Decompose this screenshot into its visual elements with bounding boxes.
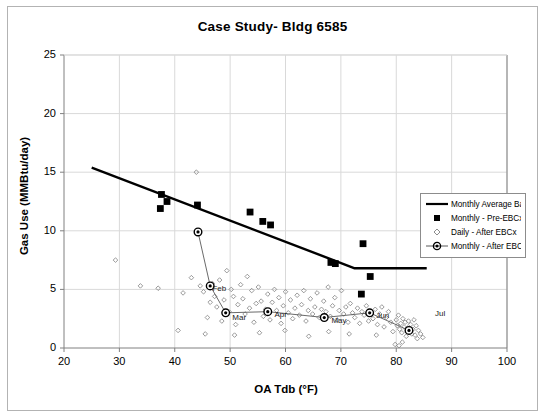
legend-item-daily-after: Daily - After EBCx (425, 225, 521, 239)
month-annotation: Mar (232, 313, 246, 322)
x-tick-label: 100 (493, 355, 521, 367)
y-axis-title: Gas Use (MMBtu/day) (18, 96, 30, 296)
x-tick-label: 40 (161, 355, 189, 367)
chart-legend: Monthly Average Baseline Monthly - Pre-E… (420, 193, 526, 258)
data-series (92, 168, 427, 348)
y-tick-label: 25 (30, 48, 56, 60)
x-tick-label: 20 (50, 355, 78, 367)
legend-label-pre-ebcx: Monthly - Pre-EBCx (451, 214, 521, 223)
month-annotation: Apr (274, 310, 286, 319)
month-annotation: May (331, 316, 346, 325)
legend-label-daily-after: Daily - After EBCx (451, 228, 517, 237)
x-axis-title: OA Tdb (°F) (64, 383, 508, 395)
legend-line-icon (425, 198, 449, 210)
month-annotation: Jul (435, 309, 445, 318)
y-tick-label: 5 (30, 282, 56, 294)
legend-line-bullseye-icon (425, 240, 449, 252)
legend-item-monthly-after: Monthly - After EBCx (425, 239, 521, 253)
chart-figure: Case Study- Bldg 6585 203040506070809010… (0, 0, 545, 418)
x-tick-label: 50 (216, 355, 244, 367)
legend-label-monthly-after: Monthly - After EBCx (451, 242, 521, 251)
legend-item-pre-ebcx: Monthly - Pre-EBCx (425, 211, 521, 225)
y-tick-label: 0 (30, 341, 56, 353)
x-tick-label: 90 (438, 355, 466, 367)
legend-label-baseline: Monthly Average Baseline (451, 200, 521, 209)
y-tick-label: 10 (30, 224, 56, 236)
y-tick-label: 20 (30, 107, 56, 119)
x-tick-label: 80 (382, 355, 410, 367)
y-tick-label: 15 (30, 165, 56, 177)
month-annotation: Feb (212, 284, 226, 293)
month-annotation: Jun (376, 311, 389, 320)
legend-item-baseline: Monthly Average Baseline (425, 197, 521, 211)
x-tick-label: 70 (327, 355, 355, 367)
x-tick-label: 60 (272, 355, 300, 367)
legend-filled-square-icon (425, 212, 449, 224)
legend-open-diamond-icon (425, 226, 449, 238)
x-tick-label: 30 (105, 355, 133, 367)
